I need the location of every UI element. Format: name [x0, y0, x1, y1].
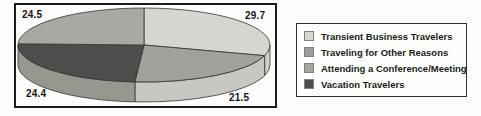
- slice-value-label: 24.4: [26, 88, 46, 99]
- legend: Transient Business Travelers Traveling f…: [296, 23, 467, 97]
- legend-swatch: [304, 31, 314, 41]
- legend-label: Traveling for Other Reasons: [321, 47, 448, 58]
- pie-chart-frame: 29.721.524.424.5: [14, 3, 277, 108]
- legend-item: Attending a Conference/Meeting: [304, 61, 462, 75]
- slice-value-label: 24.5: [22, 9, 42, 20]
- legend-item: Vacation Travelers: [304, 77, 462, 91]
- legend-label: Attending a Conference/Meeting: [321, 63, 467, 74]
- slice-value-label: 21.5: [229, 92, 249, 103]
- legend-label: Transient Business Travelers: [321, 31, 452, 42]
- legend-swatch: [304, 79, 314, 89]
- legend-item: Transient Business Travelers: [304, 29, 462, 43]
- legend-label: Vacation Travelers: [321, 79, 404, 90]
- slice-value-label: 29.7: [245, 10, 265, 21]
- legend-swatch: [304, 63, 314, 73]
- figure: 29.721.524.424.5 Transient Business Trav…: [0, 0, 481, 116]
- legend-item: Traveling for Other Reasons: [304, 45, 462, 59]
- pie-3d: [16, 5, 275, 106]
- legend-swatch: [304, 47, 314, 57]
